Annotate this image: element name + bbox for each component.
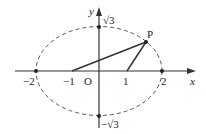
vertex-left-dot xyxy=(34,69,38,73)
label-minus-2: −2 xyxy=(23,75,35,87)
segment-f1-p xyxy=(72,42,146,71)
x-axis-label: x xyxy=(189,75,195,87)
co-vertex-top-dot xyxy=(97,25,101,29)
label-minus-1: −1 xyxy=(63,75,75,87)
label-1: 1 xyxy=(123,75,129,87)
x-axis-arrow-icon xyxy=(187,68,196,74)
label-p: P xyxy=(147,28,153,40)
y-axis-arrow-icon xyxy=(96,7,102,16)
label-sqrt3: √3 xyxy=(103,14,115,26)
vertex-right-dot xyxy=(160,69,164,73)
y-axis-label: y xyxy=(88,5,94,17)
origin-label: O xyxy=(84,75,92,87)
label-2: 2 xyxy=(161,75,167,87)
label-minus-sqrt3: −√3 xyxy=(101,118,119,130)
ellipse-diagram: y x O −2 −1 1 2 √3 −√3 P xyxy=(0,0,206,134)
point-p-dot xyxy=(144,40,148,44)
